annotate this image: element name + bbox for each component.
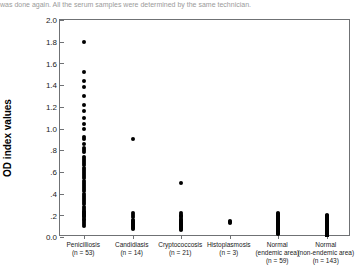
data-point [82, 94, 86, 98]
scatter-plot-figure: OD index values 2.01.81.61.41.21.0.8.6.4… [0, 0, 363, 276]
y-axis-tick-mark [60, 129, 64, 130]
data-point [82, 70, 86, 74]
y-axis-tick-label: 0.0 [46, 233, 57, 242]
data-point [131, 137, 135, 141]
x-axis-category-count: (n = 21) [158, 249, 202, 257]
y-axis-tick-label: 1.4 [46, 81, 57, 90]
y-axis-tick: .2 [50, 206, 60, 224]
x-axis-category-name: Normal [267, 241, 288, 248]
data-point [82, 79, 86, 83]
data-point [179, 181, 183, 185]
y-axis-tick-mark [60, 85, 64, 86]
plot-area: 2.01.81.61.41.21.0.8.6.4.20.0 [60, 20, 349, 235]
y-axis-tick: .6 [50, 163, 60, 181]
y-axis-tick-label: .6 [50, 168, 57, 177]
x-axis-category-label: Candidiasis(n = 14) [115, 241, 149, 257]
data-point [82, 116, 86, 120]
x-axis-tick-mark [181, 235, 182, 239]
x-axis-tick-mark [230, 235, 231, 239]
y-axis-title-label: OD index values [2, 99, 13, 177]
y-axis-tick-label: .2 [50, 212, 57, 221]
y-axis-tick-label: .8 [50, 146, 57, 155]
data-point [82, 103, 86, 107]
y-axis-tick: 2.0 [46, 11, 60, 29]
y-axis-tick-mark [60, 172, 64, 173]
y-axis-tick-mark [60, 215, 64, 216]
x-axis-category-count: (n = 53) [66, 249, 100, 257]
y-axis-tick: .4 [50, 185, 60, 203]
y-axis-tick-label: 1.2 [46, 103, 57, 112]
plot-frame: 2.01.81.61.41.21.0.8.6.4.20.0 [59, 19, 350, 236]
y-axis-tick-mark [60, 194, 64, 195]
x-axis-category-count: (n = 3) [207, 249, 251, 257]
y-axis-tick: 1.2 [46, 98, 60, 116]
x-axis-category-label: Cryptococcosis(n = 21) [158, 241, 202, 257]
x-axis-category-label: Normal(endemic area)(n = 59) [255, 241, 299, 265]
y-axis-tick: 1.4 [46, 76, 60, 94]
y-axis-tick: 1.8 [46, 33, 60, 51]
y-axis-tick-label: 1.0 [46, 125, 57, 134]
data-point [82, 109, 86, 113]
y-axis-tick: 1.0 [46, 120, 60, 138]
x-axis-category-label: Normal(non-endemic area)(n = 143) [297, 241, 354, 265]
x-axis-category-count: (n = 14) [115, 249, 149, 257]
data-point [325, 233, 329, 237]
data-point [276, 232, 280, 236]
y-axis-tick-label: 1.6 [46, 60, 57, 69]
x-axis-category-label: Penicilliosis(n = 53) [66, 241, 100, 257]
x-axis-category-name: Histoplasmosis [207, 241, 251, 248]
x-axis-category-name: Penicilliosis [66, 241, 100, 248]
data-point [82, 127, 86, 131]
y-axis-tick-mark [60, 42, 64, 43]
x-axis-tick-mark [133, 235, 134, 239]
x-axis-category-count: (n = 59) [255, 257, 299, 265]
y-axis-tick-mark [60, 237, 64, 238]
data-point [228, 221, 232, 225]
x-axis-tick-mark [84, 235, 85, 239]
data-point [82, 85, 86, 89]
y-axis-tick-mark [60, 150, 64, 151]
y-axis-tick: 1.6 [46, 54, 60, 72]
y-axis-tick-mark [60, 63, 64, 64]
x-axis-category-sublabel: (endemic area) [255, 249, 299, 257]
x-axis-category-name: Cryptococcosis [158, 241, 202, 248]
y-axis-tick: 0.0 [46, 228, 60, 246]
data-point [179, 228, 183, 232]
y-axis-tick-label: .4 [50, 190, 57, 199]
y-axis-tick: .8 [50, 141, 60, 159]
y-axis-tick-label: 2.0 [46, 16, 57, 25]
data-point [82, 40, 86, 44]
x-axis-category-count: (n = 143) [297, 257, 354, 265]
x-axis-category-name: Candidiasis [115, 241, 149, 248]
y-axis-title: OD index values [2, 99, 16, 177]
x-axis-category-sublabel: (non-endemic area) [297, 249, 354, 257]
y-axis-tick-label: 1.8 [46, 38, 57, 47]
data-point [82, 224, 86, 228]
y-axis-tick-mark [60, 20, 64, 21]
x-axis-category-label: Histoplasmosis(n = 3) [207, 241, 251, 257]
x-axis-category-name: Normal [315, 241, 336, 248]
y-axis-tick-mark [60, 107, 64, 108]
data-point [131, 227, 135, 231]
